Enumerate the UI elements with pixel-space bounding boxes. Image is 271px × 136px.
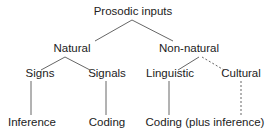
prosodic-inputs-tree-diagram: Prosodic inputs Natural Non-natural Sign… (0, 0, 271, 136)
node-linguistic: Linguistic (146, 67, 194, 80)
node-signals: Signals (88, 67, 126, 80)
node-signs: Signs (26, 67, 55, 80)
node-inference: Inference (8, 116, 56, 129)
node-coding: Coding (89, 116, 125, 129)
node-coding-plus-inference: Coding (plus inference) (146, 116, 265, 129)
node-cultural: Cultural (221, 67, 261, 80)
edge-root-nonnatural (132, 20, 173, 41)
node-non-natural: Non-natural (159, 42, 219, 55)
edge-natural-signals (65, 57, 90, 70)
node-prosodic-inputs: Prosodic inputs (94, 5, 173, 18)
node-natural: Natural (53, 42, 90, 55)
edge-root-natural (95, 20, 132, 41)
